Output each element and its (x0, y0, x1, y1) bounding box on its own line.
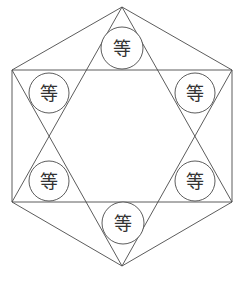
hexagram-diagram: 等 等 等 等 等 等 (0, 0, 239, 281)
node-upper-right: 等 (175, 73, 215, 113)
node-label: 等 (186, 171, 204, 192)
node-label: 等 (186, 83, 204, 104)
node-bottom: 等 (102, 202, 144, 244)
node-upper-left: 等 (29, 73, 69, 113)
node-label: 等 (40, 171, 58, 192)
node-top: 等 (101, 27, 143, 69)
node-lower-right: 等 (175, 161, 215, 201)
node-label: 等 (114, 213, 132, 234)
node-lower-left: 等 (29, 161, 69, 201)
node-label: 等 (40, 83, 58, 104)
node-label: 等 (113, 38, 131, 59)
